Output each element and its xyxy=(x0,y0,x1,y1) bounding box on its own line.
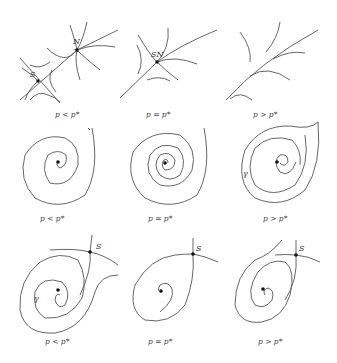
panel-r2c3-limit-cycle: γ p > p* xyxy=(242,122,319,223)
label-SN: SN xyxy=(151,50,164,59)
node-point xyxy=(75,48,78,51)
bifurcation-diagram: S N p < p* SN p = p* p > p* p < p* p xyxy=(0,0,337,363)
focus-point xyxy=(159,289,163,293)
panel-r1c2-saddle-node-merged: SN p = p* xyxy=(120,28,217,119)
focus-point xyxy=(163,161,167,165)
panel-r2c2-weak-focus: p = p* xyxy=(131,128,207,223)
label-S: S xyxy=(299,244,305,253)
label-gamma: γ xyxy=(34,294,39,303)
caption: p < p* xyxy=(45,337,70,346)
caption: p > p* xyxy=(263,214,288,223)
focus-point xyxy=(56,288,60,292)
caption: p > p* xyxy=(258,337,283,346)
panel-r1c3-no-equilibrium: p > p* xyxy=(226,22,318,119)
label-S: S xyxy=(96,242,102,251)
saddle-point xyxy=(88,250,92,254)
label-N: N xyxy=(72,37,81,46)
label-gamma: γ xyxy=(243,169,248,178)
focus-point xyxy=(261,287,265,291)
panel-r2c1-stable-focus: p < p* xyxy=(23,128,95,223)
caption: p = p* xyxy=(146,110,171,119)
label-S: S xyxy=(196,244,202,253)
saddle-point xyxy=(191,252,195,256)
saddle-node-point xyxy=(155,60,158,63)
caption: p > p* xyxy=(253,110,278,119)
caption: p < p* xyxy=(40,214,65,223)
saddle-point xyxy=(36,79,39,82)
panel-r1c1-saddle-node: S N p < p* xyxy=(20,22,118,119)
panel-r3c1-homoclinic-before: S γ p < p* xyxy=(20,235,118,346)
focus-point xyxy=(56,160,60,164)
label-S: S xyxy=(30,70,36,79)
caption: p = p* xyxy=(148,214,173,223)
saddle-point xyxy=(294,253,298,257)
focus-point xyxy=(275,160,279,164)
panel-r3c3-homoclinic-after: S p > p* xyxy=(235,240,320,346)
panel-r3c2-homoclinic-orbit: S p = p* xyxy=(133,238,218,346)
caption: p < p* xyxy=(55,110,80,119)
caption: p = p* xyxy=(148,337,173,346)
